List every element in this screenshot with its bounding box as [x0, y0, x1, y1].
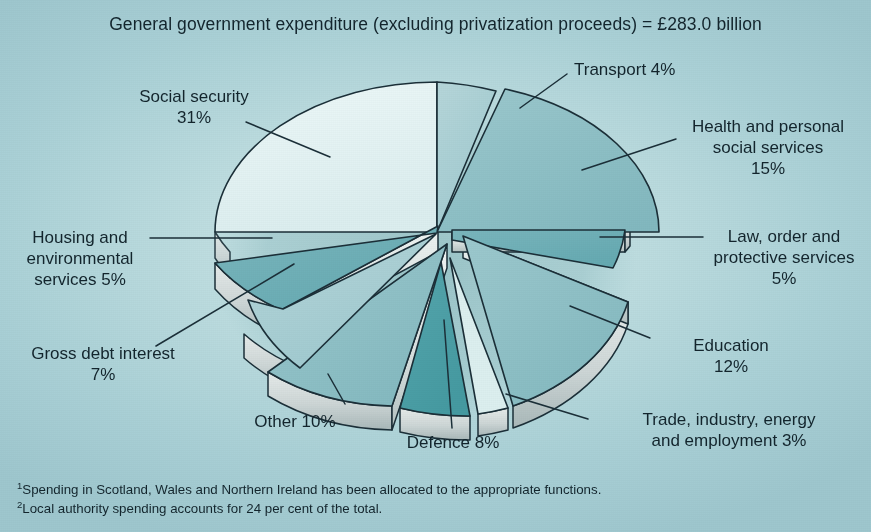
footnotes: 1Spending in Scotland, Wales and Norther… — [17, 480, 601, 518]
label-defence: Defence 8% — [378, 432, 528, 453]
label-gross-debt-interest: Gross debt interest 7% — [8, 343, 198, 385]
label-transport: Transport 4% — [574, 59, 774, 80]
label-housing: Housing and environmental services 5% — [6, 227, 154, 290]
label-social-security: Social security 31% — [104, 86, 284, 128]
footnote-2: 2Local authority spending accounts for 2… — [17, 499, 601, 518]
chart-page: General government expenditure (excludin… — [0, 0, 871, 532]
footnote-1-text: Spending in Scotland, Wales and Northern… — [22, 482, 601, 497]
label-health: Health and personal social services 15% — [672, 116, 864, 179]
label-other: Other 10% — [230, 411, 360, 432]
footnote-2-text: Local authority spending accounts for 24… — [22, 501, 382, 516]
footnote-1: 1Spending in Scotland, Wales and Norther… — [17, 480, 601, 499]
label-education: Education 12% — [656, 335, 806, 377]
label-trade: Trade, industry, energy and employment 3… — [594, 409, 864, 451]
label-law-order: Law, order and protective services 5% — [700, 226, 868, 289]
